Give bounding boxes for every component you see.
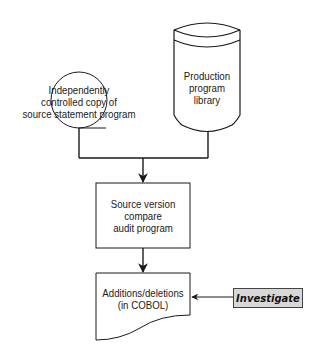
- production-library-line-1: Production: [178, 70, 236, 82]
- compare-program-line-2: compare: [102, 210, 185, 222]
- additions-deletions-line-1: Additions/deletions: [98, 287, 188, 299]
- source-copy-line-1: Independently: [17, 84, 142, 96]
- production-library-line-2: program: [178, 82, 236, 94]
- compare-program-label: Source version compare audit program: [102, 198, 185, 234]
- source-copy-line-3: source statement program: [17, 108, 142, 120]
- compare-program-line-3: audit program: [102, 222, 185, 234]
- investigate-label: Investigate: [236, 293, 300, 304]
- merge-connector: [79, 128, 208, 182]
- compare-program-line-1: Source version: [102, 198, 185, 210]
- production-library-label: Production program library: [178, 70, 236, 106]
- additions-deletions-label: Additions/deletions (in COBOL): [98, 287, 188, 311]
- source-copy-label: Independently controlled copy of source …: [17, 84, 142, 120]
- investigate-box: Investigate: [233, 288, 303, 308]
- production-library-line-3: library: [178, 94, 236, 106]
- source-copy-line-2: controlled copy of: [17, 96, 142, 108]
- additions-deletions-line-2: (in COBOL): [98, 299, 188, 311]
